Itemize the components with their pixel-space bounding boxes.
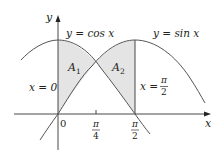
- region-a1-subscript: 1: [76, 67, 81, 76]
- right-boundary-num: π: [160, 75, 168, 85]
- y-axis-label: y: [45, 11, 53, 24]
- region-a1-fill: [58, 40, 96, 114]
- y-axis-arrow-icon: [56, 15, 61, 22]
- region-a2-fill: [96, 40, 135, 114]
- x-axis-arrow-icon: [204, 112, 211, 117]
- tick-label-pi-over-2-den: 2: [132, 131, 138, 141]
- tick-label-pi-over-4-num: π: [92, 119, 100, 129]
- area-between-sin-cos-diagram: y x 0 π 4 π 2 y = cos x y = sin x x = 0 …: [0, 0, 219, 155]
- region-a1-label: A: [67, 61, 76, 74]
- x-axis-label: x: [205, 117, 212, 130]
- right-boundary-label-prefix: x =: [140, 80, 158, 92]
- right-boundary-den: 2: [161, 87, 167, 97]
- region-a2-label: A: [111, 61, 120, 74]
- tick-label-pi-over-4-den: 4: [93, 131, 99, 141]
- region-a2-subscript: 2: [120, 67, 125, 76]
- tick-label-pi-over-2-num: π: [131, 119, 139, 129]
- left-boundary-label: x = 0: [29, 81, 57, 93]
- sin-curve-label: y = sin x: [152, 27, 199, 39]
- origin-label: 0: [60, 118, 66, 129]
- cos-curve-label: y = cos x: [65, 27, 114, 39]
